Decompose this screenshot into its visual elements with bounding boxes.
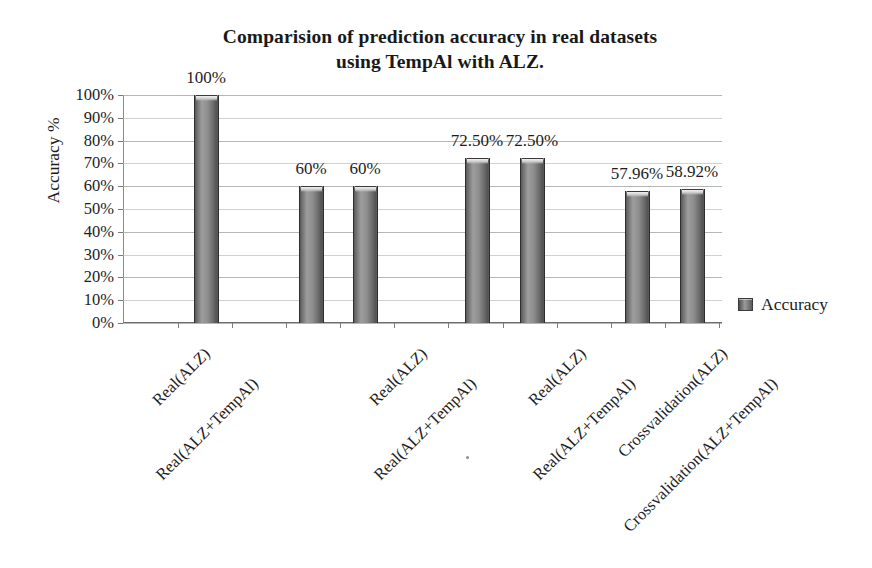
x-axis-tick-mark [665,323,666,328]
y-axis-tick-label: 0% [92,313,114,333]
x-axis-label: Real(ALZ) [524,344,590,410]
x-axis-tick-mark [719,323,720,328]
x-axis-label: Crossvalidation(ALZ+TempAl) [620,374,782,536]
bar[interactable]: 60% [353,186,378,323]
legend-label-accuracy: Accuracy [761,294,828,315]
gridline [123,323,722,324]
y-axis-tick-mark [118,232,123,233]
plot-area: 100%90%80%70%60%50%40%30%20%10%0% 100%60… [123,95,722,323]
bar[interactable]: 60% [299,186,324,323]
y-axis-tick-label: 20% [84,267,114,287]
chart-title-line-2: using TempAl with ALZ. [336,51,544,72]
y-axis-tick-mark [118,95,123,96]
y-axis-tick-label: 30% [84,245,114,265]
bar-value-label: 72.50% [451,131,503,151]
y-axis-tick-label: 60% [84,176,114,196]
x-axis-tick-mark [286,323,287,328]
bar-value-label: 57.96% [611,164,663,184]
x-axis-tick-mark [340,323,341,328]
y-axis-tick-label: 90% [84,108,114,128]
y-axis-tick-label: 100% [76,85,115,105]
y-axis-tick-label: 10% [84,290,114,310]
y-axis-tick-mark [118,209,123,210]
bar[interactable]: 57.96% [625,191,650,323]
bar-value-label: 72.50% [506,131,558,151]
bar-value-label: 100% [186,68,226,88]
x-axis-tick-mark [232,323,233,328]
bar-value-label: 60% [295,159,326,179]
x-axis-tick-mark [178,323,179,328]
x-axis-tick-mark [503,323,504,328]
y-axis-tick-mark [118,323,123,324]
bar-value-label: 60% [349,159,380,179]
bar-value-label: 58.92% [666,162,718,182]
y-axis-tick-mark [118,255,123,256]
y-axis-tick-mark [118,186,123,187]
chart-title: Comparision of prediction accuracy in re… [150,24,730,74]
legend: Accuracy [738,294,828,315]
x-axis-label: Real(ALZ) [365,344,431,410]
scan-artifact-speck [466,456,469,459]
y-axis-tick-mark [118,300,123,301]
y-axis-tick-mark [118,277,123,278]
x-axis-label: Real(ALZ) [148,344,214,410]
x-axis-tick-mark [611,323,612,328]
y-axis-tick-label: 40% [84,222,114,242]
y-axis-tick-mark [118,118,123,119]
y-axis-tick-label: 80% [84,131,114,151]
x-axis-tick-mark [448,323,449,328]
x-axis-tick-mark [557,323,558,328]
y-axis-tick-label: 70% [84,153,114,173]
bar[interactable]: 58.92% [680,189,705,323]
y-axis-tick-label: 50% [84,199,114,219]
bar[interactable]: 100% [194,95,219,323]
bar[interactable]: 72.50% [465,158,490,323]
y-axis-tick-mark [118,163,123,164]
x-axis-tick-mark [394,323,395,328]
bar[interactable]: 72.50% [520,158,545,323]
bar-chart: Comparision of prediction accuracy in re… [0,0,872,568]
legend-swatch-accuracy [738,298,753,311]
y-axis-title: Accuracy % [43,86,64,236]
y-axis-tick-mark [118,141,123,142]
chart-title-line-1: Comparision of prediction accuracy in re… [223,26,657,47]
